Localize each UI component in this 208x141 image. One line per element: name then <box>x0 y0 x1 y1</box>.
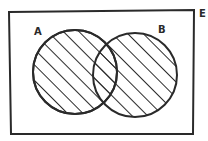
circle-b <box>93 33 177 117</box>
venn-diagram: A B E <box>0 0 208 141</box>
label-a: A <box>34 26 42 37</box>
label-universal-e: E <box>199 8 206 19</box>
label-b: B <box>158 24 166 35</box>
